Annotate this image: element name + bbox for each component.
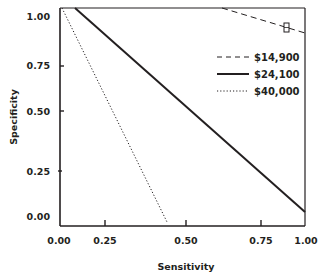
y-tick-label: 1.00 <box>27 11 51 22</box>
series-dashed-14900 <box>222 8 305 33</box>
x-tick-label: 0.25 <box>93 235 116 246</box>
series-solid-24100 <box>75 8 305 212</box>
x-axis-labels: 0.00 0.25 0.50 0.75 1.00 <box>47 235 318 246</box>
x-tick-label: 1.00 <box>294 235 318 246</box>
x-axis-ticks <box>105 220 261 226</box>
legend-label-24100: $24,100 <box>254 69 300 80</box>
roc-chart: 1.00 0.75 0.50 0.25 0.00 0.00 0.25 0.50 … <box>0 0 322 277</box>
x-axis-title: Sensitivity <box>158 261 216 272</box>
y-tick-label: 0.50 <box>27 106 51 117</box>
x-tick-label: 0.00 <box>47 235 71 246</box>
y-axis-ticks <box>58 66 64 171</box>
legend: $14,900 $24,100 $40,000 <box>217 52 300 97</box>
y-axis-labels: 1.00 0.75 0.50 0.25 0.00 <box>27 11 51 222</box>
y-tick-label: 0.00 <box>27 211 51 222</box>
legend-label-40000: $40,000 <box>254 86 300 97</box>
legend-label-14900: $14,900 <box>254 52 300 63</box>
x-tick-label: 0.75 <box>249 235 272 246</box>
y-tick-label: 0.25 <box>27 166 50 177</box>
y-tick-label: 0.75 <box>27 60 50 71</box>
series-dotted-40000 <box>62 8 167 222</box>
plot-frame <box>60 8 305 226</box>
y-axis-title: Specificity <box>8 88 19 144</box>
x-tick-label: 0.50 <box>174 235 198 246</box>
